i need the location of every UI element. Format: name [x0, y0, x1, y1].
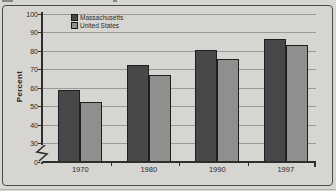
- legend-swatch-united-states: [71, 22, 78, 29]
- x-axis-end-tick: [314, 163, 316, 167]
- legend-item-united-states: United States: [71, 21, 123, 29]
- legend-item-massachusetts: Massachusetts: [71, 13, 123, 21]
- legend-swatch-massachusetts: [71, 14, 78, 21]
- y-tick-label-70: 70: [20, 66, 38, 73]
- gridline-90: [42, 32, 316, 33]
- bar-massachusetts-1997: [264, 39, 286, 162]
- cropped-caption-fragment: [113, 0, 117, 2]
- y-tick-label-100: 100: [20, 11, 38, 18]
- x-tick-mark: [248, 163, 249, 166]
- legend-label: Massachusetts: [80, 14, 123, 21]
- x-tick-mark: [111, 163, 112, 166]
- legend: Massachusetts United States: [71, 13, 123, 29]
- y-axis: [41, 12, 43, 146]
- axis-break-icon: [33, 145, 51, 163]
- bar-united-states-1970: [80, 102, 102, 162]
- x-category-label-1970: 1970: [62, 166, 98, 174]
- y-tick-label-50: 50: [20, 103, 38, 110]
- x-category-label-1980: 1980: [131, 166, 167, 174]
- x-tick-mark: [179, 163, 180, 166]
- page-scan-line: [0, 189, 336, 190]
- y-tick-label-60: 60: [20, 85, 38, 92]
- y-tick-label-80: 80: [20, 48, 38, 55]
- y-tick-label-90: 90: [20, 29, 38, 36]
- legend-label: United States: [80, 22, 119, 29]
- x-category-label-1990: 1990: [199, 166, 235, 174]
- cropped-caption-fragment: [2, 0, 13, 2]
- bar-massachusetts-1980: [127, 65, 149, 162]
- bar-massachusetts-1970: [58, 90, 80, 162]
- x-axis: [41, 161, 316, 163]
- bar-united-states-1997: [286, 45, 308, 162]
- bar-massachusetts-1990: [195, 50, 217, 162]
- x-category-label-1997: 1997: [268, 166, 304, 174]
- y-tick-label-40: 40: [20, 122, 38, 129]
- bar-united-states-1980: [149, 75, 171, 162]
- bar-united-states-1990: [217, 59, 239, 162]
- scanned-bar-chart-figure: Percent 03040506070809010019701980199019…: [0, 0, 336, 191]
